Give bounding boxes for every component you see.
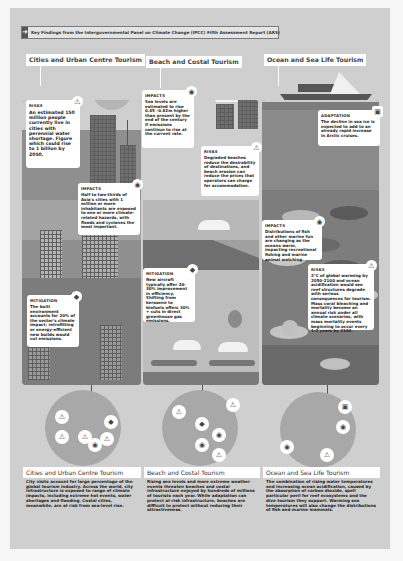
warning-icon: ⚠: [320, 448, 334, 462]
warning-icon: ⚠: [212, 448, 226, 462]
column-title-beach: Beach and Costal Tourism: [146, 56, 242, 68]
warning-icon: ⚠: [172, 405, 186, 419]
warning-icon: ⚠: [55, 430, 69, 444]
title-stem: [40, 66, 41, 86]
sand-band: [143, 200, 259, 240]
warning-icon: ⚠: [366, 260, 377, 271]
summary-ocean: Ocean and Sea Life Tourism The combinati…: [263, 467, 380, 513]
coral-shape: [320, 358, 350, 370]
card-beach-mitigation: ◆ MITIGATION New aircraft typically offe…: [143, 268, 195, 322]
diamond-icon: ◆: [104, 415, 118, 429]
fish-shape: [330, 206, 368, 220]
card-beach-risks: ⚠ RISKS Degraded beaches reduce the desi…: [201, 146, 259, 196]
cloud-shape: [198, 220, 230, 230]
building-shape: [40, 230, 62, 280]
warning-icon: ⚠: [251, 142, 262, 153]
title-stem: [160, 68, 161, 88]
coral-shape: [282, 320, 298, 336]
summary-beach: Beach and Costal Tourism Rising sea leve…: [144, 467, 260, 513]
cloud-shape: [218, 342, 248, 352]
airplane-shape: [209, 360, 255, 366]
target-icon: ◉: [212, 428, 226, 442]
warning-icon: ⚠: [55, 410, 69, 424]
sea-band: [143, 240, 259, 270]
card-city-mitigation: ◆ MITIGATION The built environment accou…: [27, 295, 79, 347]
target-icon: ◉: [195, 438, 209, 452]
warning-icon: ⚠: [226, 398, 240, 412]
building-shape: [100, 325, 122, 380]
cloud-shape: [173, 340, 201, 350]
column-title-ocean: Ocean and Sea Life Tourism: [264, 54, 366, 66]
summary-text: Rising sea levels and more extreme weath…: [144, 480, 260, 513]
summary-title: Cities and Urban Centre Tourism: [23, 467, 141, 478]
summary-text: The combination of rising water temperat…: [263, 480, 380, 513]
warning-icon: ⚠: [100, 432, 114, 446]
card-ocean-risks: ⚠ RISKS 2°C of global warming by 2050-21…: [308, 264, 374, 330]
target-icon: ◉: [186, 86, 197, 97]
target-icon: ◉: [280, 440, 294, 454]
column-title-city: Cities and Urban Centre Tourism: [26, 54, 145, 66]
title-stem: [278, 66, 279, 86]
header-banner: ➜ Key Findings from the Intergovernmenta…: [21, 26, 279, 39]
building-shape: [216, 104, 234, 129]
summary-city: Cities and Urban Centre Tourism City vis…: [23, 467, 141, 508]
airplane-shape: [151, 360, 197, 366]
diamond-icon: ◆: [195, 417, 209, 431]
summary-text: City visits account for large percentage…: [23, 480, 141, 508]
card-beach-impacts: ◉ IMPACTS Sea levels are estimated to ri…: [142, 90, 194, 148]
card-ocean-impacts: ◉ IMPACTS Distributions of fish and othe…: [262, 220, 322, 260]
diamond-icon: ◆: [71, 291, 82, 302]
card-city-risks: ⚠ RISKS An estimated 150 million people …: [26, 100, 80, 168]
runway-band: [143, 372, 259, 385]
antenna-shape: [127, 120, 128, 146]
card-city-impacts: ◉ IMPACTS Half to two-thirds of Asia's c…: [78, 183, 140, 235]
square-icon: ▣: [338, 400, 352, 414]
summary-title: Beach and Costal Tourism: [144, 467, 260, 478]
warning-icon: ⚠: [72, 96, 83, 107]
sky: [262, 100, 379, 102]
summary-title: Ocean and Sea Life Tourism: [263, 467, 380, 478]
control-tower-shape: [228, 310, 242, 328]
target-icon: ◉: [132, 179, 143, 190]
target-icon: ◉: [314, 216, 325, 227]
card-ocean-adaptation: ▣ ADAPTATION The decline in sea ice is e…: [318, 110, 380, 146]
square-icon: ▣: [372, 106, 383, 117]
diamond-icon: ◆: [187, 264, 198, 275]
target-icon: ◉: [336, 420, 350, 434]
header-title: Key Findings from the Intergovernmental …: [28, 30, 280, 35]
building-shape: [238, 100, 258, 129]
